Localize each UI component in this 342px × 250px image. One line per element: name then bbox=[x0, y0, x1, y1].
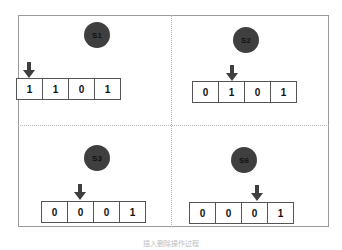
pointer-arrow-icon bbox=[251, 185, 263, 201]
array-cell: 1 bbox=[16, 78, 43, 100]
array-cell: 0 bbox=[215, 202, 242, 224]
array-cell: 1 bbox=[119, 201, 146, 223]
horizontal-divider bbox=[18, 125, 329, 126]
pointer-arrow-icon bbox=[23, 62, 35, 78]
pointer-arrow-icon bbox=[74, 184, 86, 200]
state-node-s2: S2 bbox=[233, 27, 259, 53]
vertical-divider bbox=[171, 15, 172, 227]
bit-array-s2: 0 1 0 1 bbox=[192, 81, 297, 103]
figure-caption: 插入删除操作过程 bbox=[0, 238, 342, 248]
array-cell: 0 bbox=[241, 202, 268, 224]
array-cell: 0 bbox=[41, 201, 68, 223]
array-cell: 1 bbox=[94, 78, 121, 100]
pointer-arrow-icon bbox=[226, 65, 238, 81]
array-cell: 0 bbox=[93, 201, 120, 223]
array-cell: 0 bbox=[189, 202, 216, 224]
diagram-frame bbox=[18, 15, 329, 227]
array-cell: 1 bbox=[270, 81, 297, 103]
state-node-s6: S6 bbox=[231, 147, 257, 173]
array-cell: 1 bbox=[42, 78, 69, 100]
array-cell: 1 bbox=[267, 202, 294, 224]
array-cell: 0 bbox=[192, 81, 219, 103]
bit-array-s6: 0 0 0 1 bbox=[189, 202, 294, 224]
bit-array-s1: 1 1 0 1 bbox=[16, 78, 121, 100]
array-cell: 1 bbox=[218, 81, 245, 103]
bit-array-s3: 0 0 0 1 bbox=[41, 201, 146, 223]
array-cell: 0 bbox=[68, 78, 95, 100]
array-cell: 0 bbox=[67, 201, 94, 223]
array-cell: 0 bbox=[244, 81, 271, 103]
state-node-s3: S3 bbox=[84, 145, 110, 171]
state-node-s1: S1 bbox=[84, 22, 110, 48]
